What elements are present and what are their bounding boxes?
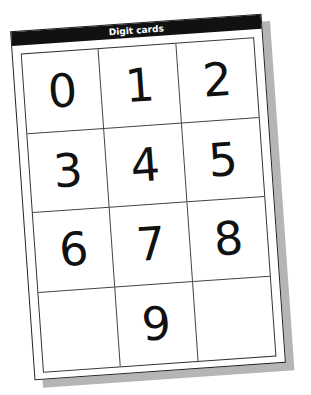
digit-card: 0 [22,49,105,134]
worksheet: Digit cards 0 1 2 3 4 5 6 7 8 9 [10,14,286,381]
digit-card: 5 [182,118,265,203]
digit-card: 9 [116,282,199,367]
digit-card: 6 [33,208,116,293]
digit-card [38,287,121,372]
digit-card: 1 [99,44,182,129]
digit-card: 7 [110,202,193,287]
page: Digit cards 0 1 2 3 4 5 6 7 8 9 [10,14,286,381]
digit-card [193,276,276,361]
digit-card: 8 [187,197,270,282]
digit-card: 4 [104,123,187,208]
digit-card: 3 [27,128,110,213]
digit-card: 2 [176,38,259,123]
digit-grid: 0 1 2 3 4 5 6 7 8 9 [21,37,277,373]
